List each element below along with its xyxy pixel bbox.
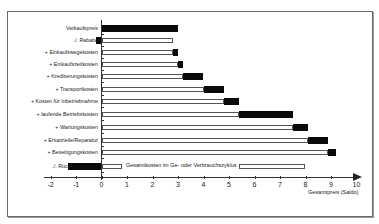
x-tick <box>331 176 332 179</box>
cumulative-bar <box>102 74 184 79</box>
x-axis-arrow-icon <box>353 173 362 181</box>
cumulative-bar <box>102 138 309 143</box>
x-tick-label: 1 <box>119 181 135 188</box>
x-tick <box>127 176 128 179</box>
y-tick <box>101 107 104 108</box>
x-tick-label: 6 <box>247 181 263 188</box>
category-label: Verkaufspreis <box>66 25 98 32</box>
x-tick-label: 7 <box>272 181 288 188</box>
total-cost-bar <box>239 164 305 169</box>
total-cost-annotation: Gesamtkosten im Ge- oder Verbrauchszyklu… <box>126 162 237 169</box>
increment-bar <box>96 37 101 44</box>
x-tick-label: 3 <box>170 181 186 188</box>
y-tick <box>101 120 104 121</box>
y-tick <box>101 46 104 47</box>
category-label: + Transportkosten <box>55 86 98 93</box>
x-tick <box>153 176 154 179</box>
category-label: + Kosten für Inbetriebnahme <box>31 98 98 105</box>
y-tick <box>101 133 104 134</box>
increment-bar <box>183 73 203 80</box>
x-tick <box>229 176 230 179</box>
cumulative-bar <box>102 99 224 104</box>
increment-bar <box>308 137 328 144</box>
category-label: + Wartungskosten <box>55 124 98 131</box>
x-tick <box>51 176 52 179</box>
category-label: + laufende Betriebskosten <box>37 111 98 118</box>
increment-bar <box>68 163 101 170</box>
increment-bar <box>178 61 183 68</box>
x-tick-label: 9 <box>323 181 339 188</box>
x-tick <box>102 176 103 179</box>
x-tick-label: 8 <box>298 181 314 188</box>
x-tick <box>280 176 281 179</box>
y-tick <box>101 82 104 83</box>
category-label: + Beseitigungskosten <box>47 149 98 156</box>
cumulative-bar <box>102 125 293 130</box>
y-tick <box>101 158 104 159</box>
x-tick-label: 10 <box>349 181 365 188</box>
x-tick-label: 4 <box>196 181 212 188</box>
cumulative-bar <box>102 164 122 169</box>
x-tick-label: -2 <box>43 181 59 188</box>
y-tick <box>101 172 104 173</box>
y-tick <box>101 70 104 71</box>
category-label: + Einkaufswegekosten <box>45 49 98 56</box>
x-tick <box>76 176 77 179</box>
increment-bar <box>293 124 308 131</box>
category-label: ./. Rabatte <box>74 37 98 44</box>
cumulative-bar <box>102 87 204 92</box>
x-tick-label: 0 <box>94 181 110 188</box>
increment-bar <box>173 49 178 56</box>
x-tick <box>178 176 179 179</box>
y-tick <box>101 146 104 147</box>
cumulative-bar <box>102 50 173 55</box>
x-tick-label: 2 <box>145 181 161 188</box>
increment-bar <box>328 149 336 156</box>
y-tick <box>101 58 104 59</box>
x-tick <box>357 176 358 179</box>
category-label: + Einkaufszeitkosten <box>49 61 98 68</box>
x-tick <box>204 176 205 179</box>
y-tick <box>101 95 104 96</box>
x-axis-label: Gesamtpreis (Saldo) <box>308 189 358 195</box>
increment-bar <box>102 25 179 32</box>
waterfall-chart: Gesamtpreis (Saldo) Gesamtkosten im Ge- … <box>0 0 379 224</box>
x-tick <box>255 176 256 179</box>
cumulative-bar <box>102 112 240 117</box>
x-tick-label: -1 <box>68 181 84 188</box>
cumulative-bar <box>102 38 173 43</box>
increment-bar <box>239 111 293 118</box>
x-axis <box>44 177 356 178</box>
category-label: + Kreditierungskosten <box>47 73 98 80</box>
x-tick <box>306 176 307 179</box>
x-tick-label: 5 <box>221 181 237 188</box>
increment-bar <box>204 86 224 93</box>
category-label: + Ersatzteile/Reparatur <box>44 137 98 144</box>
increment-bar <box>224 98 239 105</box>
y-tick <box>101 34 104 35</box>
cumulative-bar <box>102 62 179 67</box>
cumulative-bar <box>102 150 329 155</box>
